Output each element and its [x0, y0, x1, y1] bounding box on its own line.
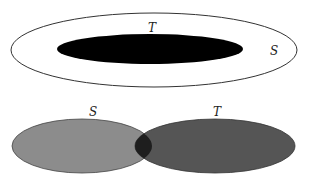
- subset-diagram: T S: [11, 13, 297, 87]
- label-s-bottom: S: [89, 105, 97, 119]
- set-s-left-ellipse: [12, 119, 152, 173]
- label-t-bottom: T: [213, 105, 222, 119]
- set-t-inner-ellipse: [57, 34, 243, 64]
- overlap-diagram: S T: [12, 105, 295, 173]
- label-t-top: T: [148, 21, 157, 35]
- set-t-right-ellipse: [135, 119, 295, 173]
- set-diagram: T S S T: [0, 0, 310, 182]
- label-s-top: S: [270, 44, 278, 58]
